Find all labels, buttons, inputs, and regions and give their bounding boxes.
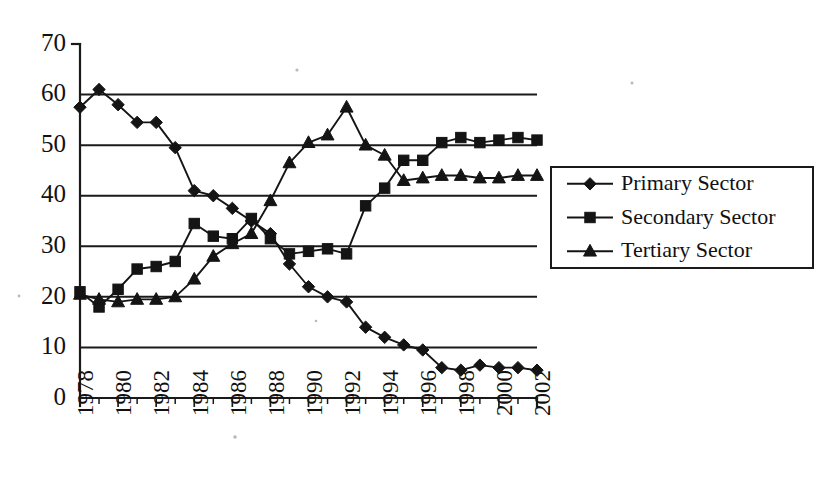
scan-speck bbox=[631, 82, 634, 85]
data-point-marker bbox=[494, 135, 504, 145]
line-chart: 010203040506070 197819801982198419861988… bbox=[0, 0, 827, 497]
legend-label: Tertiary Sector bbox=[621, 237, 753, 262]
y-tick-label: 10 bbox=[41, 332, 66, 359]
y-tick-label: 20 bbox=[41, 282, 66, 309]
data-point-marker bbox=[360, 201, 370, 211]
data-point-marker bbox=[132, 264, 142, 274]
data-point-marker bbox=[399, 155, 409, 165]
scan-speck bbox=[295, 68, 298, 71]
data-point-marker bbox=[513, 132, 523, 142]
x-tick-label: 2002 bbox=[530, 370, 555, 416]
y-tick-label: 60 bbox=[41, 79, 66, 106]
y-tick-label: 70 bbox=[41, 29, 66, 56]
data-point-marker bbox=[284, 249, 294, 259]
x-tick-label: 2000 bbox=[492, 370, 517, 416]
x-tick-label: 1992 bbox=[340, 370, 365, 416]
x-tick-label: 1978 bbox=[73, 370, 98, 416]
data-point-marker bbox=[189, 218, 199, 228]
data-point-marker bbox=[322, 244, 332, 254]
legend-label: Primary Sector bbox=[621, 170, 754, 195]
data-point-marker bbox=[170, 256, 180, 266]
x-tick-label: 1990 bbox=[302, 370, 327, 416]
data-point-marker bbox=[246, 213, 256, 223]
data-point-marker bbox=[379, 183, 389, 193]
legend-marker-square-icon bbox=[585, 212, 595, 222]
x-tick-label: 1996 bbox=[416, 370, 441, 416]
data-point-marker bbox=[113, 284, 123, 294]
x-tick-label: 1980 bbox=[111, 370, 136, 416]
x-tick-label: 1998 bbox=[454, 370, 479, 416]
data-point-marker bbox=[532, 135, 542, 145]
y-tick-label: 50 bbox=[41, 130, 66, 157]
data-point-marker bbox=[437, 137, 447, 147]
data-point-marker bbox=[418, 155, 428, 165]
legend-label: Secondary Sector bbox=[621, 204, 776, 229]
scan-speck bbox=[315, 320, 318, 323]
x-tick-label: 1988 bbox=[264, 370, 289, 416]
data-point-marker bbox=[265, 234, 275, 244]
x-tick-label: 1982 bbox=[149, 370, 174, 416]
chart-legend: Primary SectorSecondary SectorTertiary S… bbox=[551, 167, 813, 268]
chart-figure: 010203040506070 197819801982198419861988… bbox=[0, 0, 827, 497]
y-tick-label: 30 bbox=[41, 231, 66, 258]
data-point-marker bbox=[341, 249, 351, 259]
x-tick-label: 1994 bbox=[378, 370, 403, 417]
data-point-marker bbox=[303, 246, 313, 256]
x-tick-label: 1986 bbox=[226, 370, 251, 416]
x-tick-label: 1984 bbox=[188, 370, 213, 417]
data-point-marker bbox=[475, 137, 485, 147]
scan-speck bbox=[18, 295, 21, 298]
data-point-marker bbox=[456, 132, 466, 142]
scan-speck bbox=[233, 435, 237, 439]
y-tick-label: 40 bbox=[41, 180, 66, 207]
data-point-marker bbox=[208, 231, 218, 241]
y-tick-label: 0 bbox=[54, 383, 67, 410]
data-point-marker bbox=[151, 261, 161, 271]
